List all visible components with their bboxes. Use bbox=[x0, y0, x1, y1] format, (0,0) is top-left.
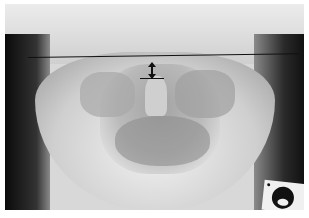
lateral-mass-right bbox=[175, 70, 235, 118]
arrow-down-icon bbox=[148, 74, 156, 79]
radiograph bbox=[5, 4, 304, 210]
marker-ring-icon bbox=[271, 186, 295, 210]
marker-hole bbox=[277, 198, 289, 206]
marker-dot-icon bbox=[267, 183, 270, 186]
dens bbox=[145, 76, 167, 116]
side-marker bbox=[262, 180, 304, 210]
axis-body bbox=[115, 116, 210, 166]
arrow-up-icon bbox=[148, 62, 156, 67]
lateral-mass-left bbox=[80, 72, 135, 117]
